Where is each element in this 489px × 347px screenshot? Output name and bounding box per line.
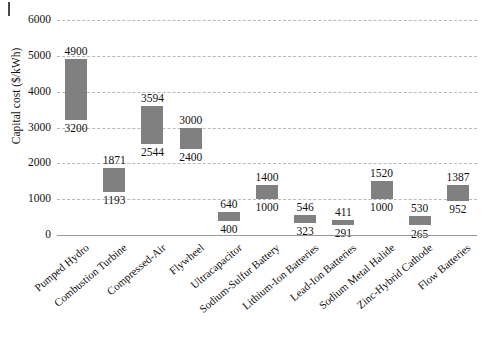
bar-low-value-label: 400 bbox=[199, 223, 259, 235]
range-bar bbox=[180, 128, 202, 150]
bar-high-value-label: 1387 bbox=[428, 171, 488, 183]
range-bar bbox=[218, 212, 240, 221]
bar-low-value-label: 265 bbox=[390, 228, 450, 240]
bar-low-value-label: 1193 bbox=[84, 194, 144, 206]
gridline-4000 bbox=[57, 92, 477, 93]
y-tick-label-2000: 2000 bbox=[0, 157, 51, 169]
y-tick-label-0: 0 bbox=[0, 229, 51, 241]
bar-high-value-label: 3000 bbox=[161, 114, 221, 126]
y-tick-label-4000: 4000 bbox=[0, 86, 51, 98]
bar-high-value-label: 4900 bbox=[46, 45, 106, 57]
bar-low-value-label: 3200 bbox=[46, 122, 106, 134]
bar-high-value-label: 1400 bbox=[237, 171, 297, 183]
range-bar bbox=[103, 168, 125, 192]
range-bar bbox=[332, 220, 354, 224]
capital-cost-range-chart: Capital cost ($/kWh) 6000500040003000200… bbox=[0, 0, 489, 347]
bar-low-value-label: 952 bbox=[428, 203, 488, 215]
y-tick-label-3000: 3000 bbox=[0, 122, 51, 134]
bar-low-value-label: 2400 bbox=[161, 151, 221, 163]
range-bar bbox=[65, 59, 87, 120]
gridline-3000 bbox=[57, 128, 477, 129]
axis-baseline bbox=[57, 235, 477, 236]
y-axis-label-container: Capital cost ($/kWh) bbox=[18, 0, 19, 215]
plot-area: 4900320018711193359425443000240064040014… bbox=[57, 20, 477, 235]
range-bar bbox=[256, 185, 278, 199]
y-tick-label-5000: 5000 bbox=[0, 50, 51, 62]
bar-low-value-label: 291 bbox=[313, 227, 373, 239]
gridline-5000 bbox=[57, 56, 477, 57]
gridline-6000 bbox=[57, 20, 477, 21]
y-tick-label-6000: 6000 bbox=[0, 14, 51, 26]
y-tick-label-1000: 1000 bbox=[0, 193, 51, 205]
bar-high-value-label: 3594 bbox=[122, 92, 182, 104]
range-bar bbox=[371, 181, 393, 200]
range-bar bbox=[447, 185, 469, 201]
range-bar bbox=[409, 216, 431, 225]
x-axis-label-lead-ion-batteries: Lead-Ion Batteries bbox=[288, 242, 358, 303]
bar-high-value-label: 1520 bbox=[352, 167, 412, 179]
